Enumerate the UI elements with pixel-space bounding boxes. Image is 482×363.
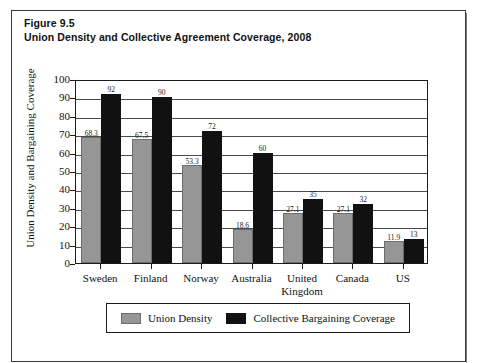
y-axis-tick-label: 20	[44, 221, 70, 232]
bar-collective-bargaining[interactable]: 72	[202, 131, 222, 263]
bar-value-label: 53.3	[186, 157, 199, 166]
y-axis-tick-label: 70	[44, 129, 70, 140]
bar-collective-bargaining[interactable]: 60	[253, 153, 273, 263]
bar-value-label: 72	[208, 122, 216, 131]
bar-value-label: 67.5	[135, 131, 148, 140]
bar-collective-bargaining[interactable]: 32	[353, 204, 373, 263]
bar-collective-bargaining[interactable]: 35	[303, 199, 323, 263]
bar-union-density[interactable]: 11.9	[384, 241, 404, 263]
y-axis-tick-mark	[70, 227, 75, 228]
bar-value-label: 13	[410, 230, 418, 239]
y-axis-tick-label: 30	[44, 203, 70, 214]
legend-swatch-union-density	[121, 313, 141, 324]
y-axis-tick-label: 90	[44, 92, 70, 103]
x-axis-label-line: Norway	[176, 272, 226, 285]
x-axis-category-label: UnitedKingdom	[277, 272, 327, 297]
x-axis-category-label: Norway	[176, 272, 226, 285]
bar-collective-bargaining[interactable]: 92	[101, 94, 121, 263]
y-axis-tick-labels: 1009080706050403020100	[43, 80, 70, 264]
y-axis-tick-label: 60	[44, 148, 70, 159]
bar-group: 27.135	[283, 81, 323, 263]
x-axis-label-line: Finland	[125, 272, 175, 285]
x-axis-category-label: Sweden	[75, 272, 125, 285]
bar-value-label: 18.6	[236, 221, 249, 230]
bar-value-label: 27.1	[337, 205, 350, 214]
x-axis-label-line: Canada	[327, 272, 377, 285]
y-axis-title: Union Density and Bargaining Coverage	[24, 66, 36, 250]
y-axis-tick-mark	[70, 209, 75, 210]
bar-collective-bargaining[interactable]: 90	[152, 97, 172, 263]
bar-union-density[interactable]: 68.3	[81, 137, 101, 263]
x-axis-tick-mark	[151, 264, 152, 269]
bar-group: 53.372	[182, 81, 222, 263]
legend-item[interactable]: Union Density	[121, 312, 212, 324]
y-axis-tick-label: 100	[44, 74, 70, 85]
legend-swatch-collective-bargaining	[226, 313, 246, 324]
bar-union-density[interactable]: 27.1	[333, 213, 353, 263]
y-axis-tick-mark	[70, 172, 75, 173]
y-axis-tick-label: 80	[44, 111, 70, 122]
y-axis-tick-mark	[70, 190, 75, 191]
bar-group: 67.590	[132, 81, 172, 263]
x-axis-category-label: Finland	[125, 272, 175, 285]
y-axis-tick-mark	[70, 80, 75, 81]
bar-group: 18.660	[233, 81, 273, 263]
bar-value-label: 35	[309, 190, 317, 199]
x-axis-tick-mark	[302, 264, 303, 269]
x-axis-label-line: US	[378, 272, 428, 285]
x-axis-tick-mark	[352, 264, 353, 269]
bar-union-density[interactable]: 53.3	[182, 165, 202, 263]
x-axis-label-line: United	[277, 272, 327, 285]
bar-value-label: 32	[360, 195, 368, 204]
plot-area: 68.39267.59053.37218.66027.13527.13211.9…	[75, 80, 428, 264]
x-axis-label-line: Kingdom	[277, 285, 327, 298]
y-axis-tick-mark	[70, 264, 75, 265]
bar-value-label: 27.1	[286, 205, 299, 214]
legend-label: Collective Bargaining Coverage	[253, 312, 395, 324]
y-axis-tick-mark	[70, 246, 75, 247]
x-axis-tick-mark	[252, 264, 253, 269]
bar-value-label: 60	[259, 144, 267, 153]
bar-union-density[interactable]: 27.1	[283, 213, 303, 263]
y-axis-tick-label: 50	[44, 166, 70, 177]
x-axis-category-label: Canada	[327, 272, 377, 285]
bar-group: 68.392	[81, 81, 121, 263]
chart-legend: Union DensityCollective Bargaining Cover…	[106, 303, 410, 333]
bar-value-label: 90	[158, 88, 166, 97]
y-axis-tick-label: 0	[44, 258, 70, 269]
y-axis-tick-label: 40	[44, 184, 70, 195]
y-axis-tick-mark	[70, 117, 75, 118]
bar-union-density[interactable]: 67.5	[132, 139, 152, 263]
bar-union-density[interactable]: 18.6	[233, 229, 253, 263]
y-axis-tick-mark	[70, 154, 75, 155]
x-axis-label-line: Australia	[226, 272, 276, 285]
y-axis-tick-label: 10	[44, 240, 70, 251]
x-axis-label-line: Sweden	[75, 272, 125, 285]
y-axis-tick-mark	[70, 98, 75, 99]
bar-collective-bargaining[interactable]: 13	[404, 239, 424, 263]
bar-value-label: 11.9	[387, 233, 400, 242]
bar-group: 11.913	[384, 81, 424, 263]
bar-value-label: 92	[107, 85, 115, 94]
x-axis-category-label: US	[378, 272, 428, 285]
x-axis-tick-mark	[201, 264, 202, 269]
x-axis-tick-mark	[403, 264, 404, 269]
legend-item[interactable]: Collective Bargaining Coverage	[226, 312, 395, 324]
y-axis-tick-mark	[70, 135, 75, 136]
x-axis-category-label: Australia	[226, 272, 276, 285]
legend-label: Union Density	[148, 312, 212, 324]
x-axis-tick-mark	[100, 264, 101, 269]
bar-value-label: 68.3	[85, 129, 98, 138]
bar-group: 27.132	[333, 81, 373, 263]
